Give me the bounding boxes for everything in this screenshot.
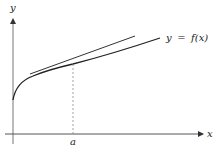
curve-label-lhs: y	[165, 32, 172, 43]
y-axis-label: y	[9, 2, 16, 13]
point-a-label: a	[70, 136, 76, 147]
curve-label-eq: =	[177, 32, 185, 43]
curve-label-rhs: f(x)	[190, 32, 208, 43]
curve-label: y = f(x)	[165, 32, 208, 43]
function-curve	[13, 38, 160, 100]
tangent-line	[30, 36, 135, 74]
tangent-diagram: y x a y = f(x)	[0, 0, 216, 147]
x-axis-label: x	[207, 128, 213, 139]
